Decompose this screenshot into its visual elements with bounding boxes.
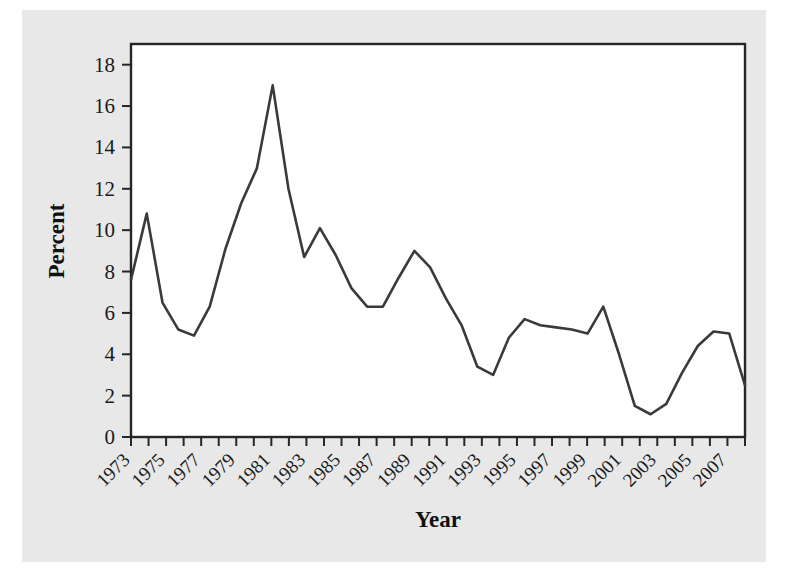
y-axis-tick-label: 18: [94, 53, 115, 77]
y-axis-tick-label: 16: [94, 94, 115, 118]
x-axis-tick-label: 1979: [197, 449, 239, 491]
x-axis-tick-label: 1989: [373, 449, 415, 491]
line-chart: 024681012141618 197319751977197919811983…: [0, 0, 788, 577]
y-axis-tick-label: 0: [105, 425, 116, 449]
x-axis-tick-label: 1973: [92, 449, 134, 491]
x-axis-tick-label: 1977: [162, 449, 204, 491]
y-axis-tick-label: 4: [105, 342, 116, 366]
x-axis-title: Year: [415, 507, 461, 532]
y-axis-tick-label: 12: [94, 177, 115, 201]
x-axis-tick-label: 1995: [478, 449, 520, 491]
x-axis-tick-label: 1999: [548, 449, 590, 491]
x-axis-ticks: [131, 437, 745, 446]
y-axis-tick-label: 10: [94, 218, 115, 242]
x-axis-tick-label: 1985: [303, 449, 345, 491]
y-axis-title: Percent: [44, 203, 69, 278]
y-axis-tick-label: 2: [105, 384, 116, 408]
figure-page: 024681012141618 197319751977197919811983…: [0, 0, 788, 577]
x-axis-tick-label: 1987: [338, 449, 380, 491]
y-axis-tick-label: 6: [105, 301, 116, 325]
x-axis-tick-labels: 1973197519771979198119831985198719891991…: [92, 449, 730, 491]
x-axis-tick-label: 1981: [232, 449, 274, 491]
x-axis-tick-label: 1997: [513, 449, 555, 491]
y-axis-tick-label: 8: [105, 260, 116, 284]
x-axis-tick-label: 2001: [583, 449, 625, 491]
x-axis-tick-label: 1975: [127, 449, 169, 491]
y-axis-tick-labels: 024681012141618: [94, 53, 116, 449]
x-axis-tick-label: 1993: [443, 449, 485, 491]
x-axis-tick-label: 2003: [618, 449, 660, 491]
plot-area-frame: [131, 44, 745, 437]
x-axis-tick-label: 1983: [268, 449, 310, 491]
x-axis-tick-label: 2005: [653, 449, 695, 491]
x-axis-tick-label: 2007: [689, 449, 731, 491]
y-axis-tick-label: 14: [94, 135, 116, 159]
x-axis-tick-label: 1991: [408, 449, 450, 491]
y-axis-ticks: [122, 65, 131, 437]
